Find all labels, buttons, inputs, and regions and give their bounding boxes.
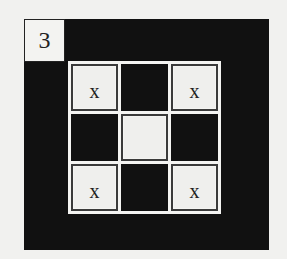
grid-cell-r2c3: [171, 114, 218, 161]
grid-cell-r3c1: x: [71, 164, 118, 211]
grid-cell-r1c1: x: [71, 64, 118, 111]
grid-cell-r3c2: [121, 164, 168, 211]
grid-cell-r2c2: [121, 114, 168, 161]
grid-cell-r1c2: [121, 64, 168, 111]
grid-cell-r1c3: x: [171, 64, 218, 111]
cell-grid: x x x x: [68, 61, 221, 214]
puzzle-number-label: 3: [24, 19, 65, 62]
grid-cell-r3c3: x: [171, 164, 218, 211]
grid-cell-r2c1: [71, 114, 118, 161]
